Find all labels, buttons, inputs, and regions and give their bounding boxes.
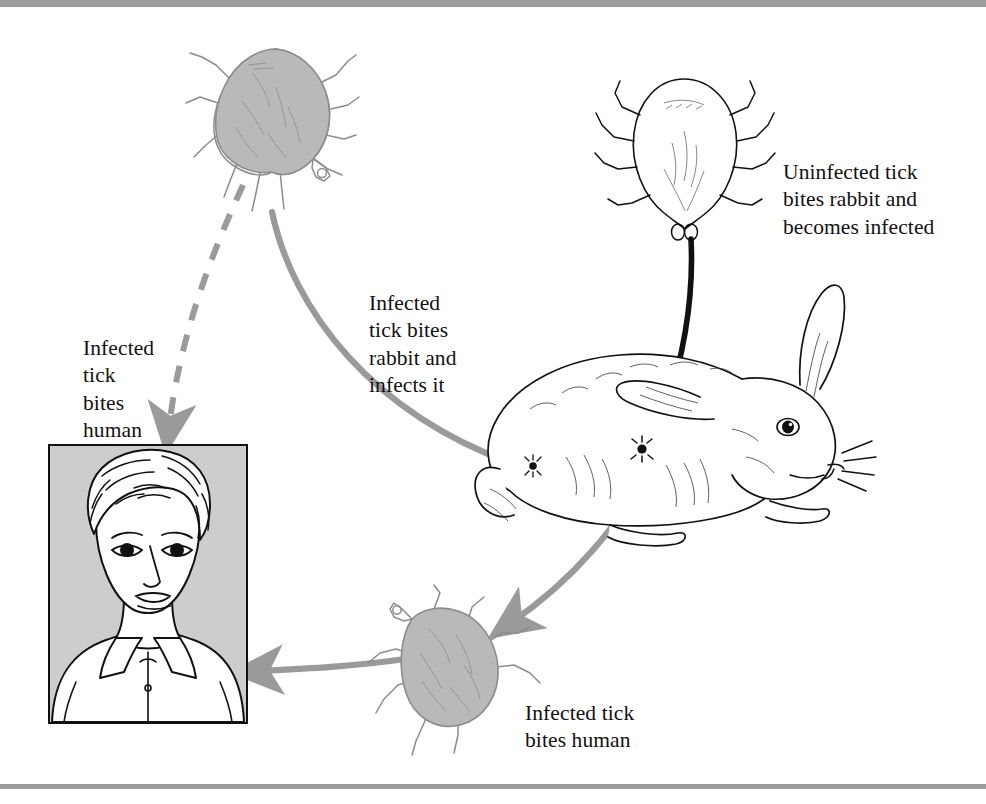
human-portrait-illustration <box>50 446 246 722</box>
caption-infected-tick-bites-human-left: Infected tick bites human <box>83 335 154 444</box>
tick-infected-top-icon <box>180 35 360 220</box>
caption-uninfected-tick: Uninfected tick bites rabbit and becomes… <box>783 159 934 241</box>
arrow-infected-tick-to-human <box>169 185 243 427</box>
top-rule <box>0 0 986 7</box>
bottom-rule <box>0 784 986 789</box>
tick-uninfected-icon <box>592 69 777 249</box>
human-portrait-panel <box>48 444 248 724</box>
rabbit-illustration <box>470 279 880 579</box>
caption-infected-tick-bites-rabbit: Infected tick bites rabbit and infects i… <box>369 290 457 399</box>
caption-infected-tick-bites-human-bottom: Infected tick bites human <box>525 700 634 755</box>
tick-infected-bottom-icon <box>360 583 545 758</box>
diagram-stage: Uninfected tick bites rabbit and becomes… <box>0 7 986 784</box>
